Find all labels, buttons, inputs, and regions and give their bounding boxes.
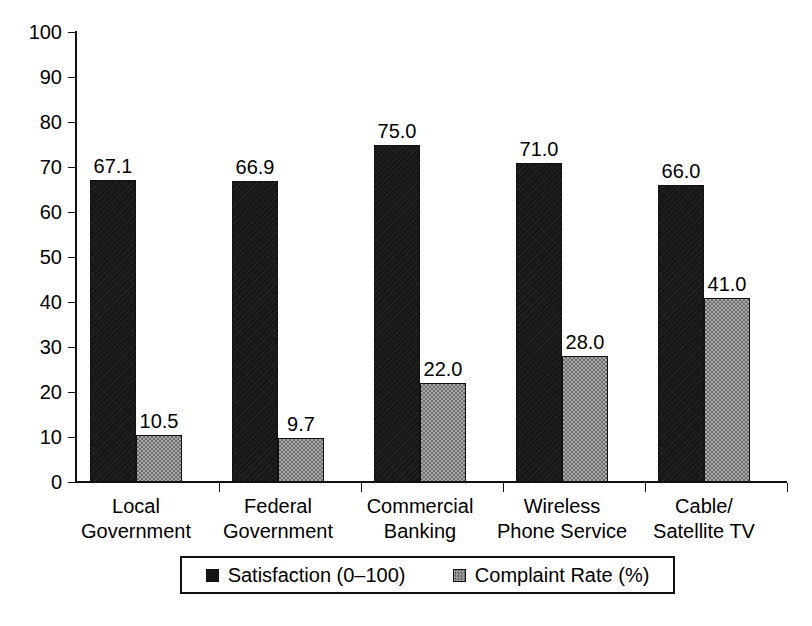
y-axis-tick xyxy=(68,257,76,258)
y-axis-tick-label: 80 xyxy=(4,112,62,132)
bar: 71.0 xyxy=(516,163,562,483)
legend-item-complaint-rate: Complaint Rate (%) xyxy=(453,565,650,585)
bar-group: 75.022.0 xyxy=(361,32,503,482)
bar: 10.5 xyxy=(136,435,182,482)
chart-legend: Satisfaction (0–100) Complaint Rate (%) xyxy=(180,556,675,594)
bar-value-label: 22.0 xyxy=(424,358,463,380)
y-axis-tick-label: 10 xyxy=(4,427,62,447)
x-axis-category-label: Cable/Satellite TV xyxy=(594,494,812,544)
y-axis-tick xyxy=(68,77,76,78)
y-axis-tick-label: 20 xyxy=(4,382,62,402)
y-axis-tick xyxy=(68,437,76,438)
bar: 66.9 xyxy=(232,181,278,482)
bar: 9.7 xyxy=(278,438,324,482)
y-axis-tick xyxy=(68,302,76,303)
legend-item-satisfaction: Satisfaction (0–100) xyxy=(206,565,406,585)
bar-value-label: 9.7 xyxy=(287,413,315,435)
x-axis-tick xyxy=(503,483,504,492)
y-axis-tick xyxy=(68,392,76,393)
bar-value-label: 66.0 xyxy=(662,160,701,182)
legend-label-satisfaction: Satisfaction (0–100) xyxy=(228,565,406,585)
bar-value-label: 66.9 xyxy=(236,156,275,178)
legend-label-complaint-rate: Complaint Rate (%) xyxy=(475,565,650,585)
bar-value-label: 28.0 xyxy=(566,331,605,353)
bar: 66.0 xyxy=(658,185,704,482)
gray-square-swatch-icon xyxy=(453,569,466,582)
y-axis-tick xyxy=(68,212,76,213)
dark-square-swatch-icon xyxy=(206,569,219,582)
bar: 75.0 xyxy=(374,145,420,483)
bar: 28.0 xyxy=(562,356,608,482)
bar-value-label: 67.1 xyxy=(94,155,133,177)
bar: 41.0 xyxy=(704,298,750,483)
x-axis-tick xyxy=(787,483,788,492)
y-axis-tick xyxy=(68,122,76,123)
y-axis-tick-label: 40 xyxy=(4,292,62,312)
bar: 22.0 xyxy=(420,383,466,482)
bar-group: 71.028.0 xyxy=(503,32,645,482)
y-axis-tick-label: 60 xyxy=(4,202,62,222)
y-axis-tick-label: 90 xyxy=(4,67,62,87)
y-axis-tick-label: 50 xyxy=(4,247,62,267)
plot-area: 67.110.566.99.775.022.071.028.066.041.0 xyxy=(77,32,787,482)
bar-group: 67.110.5 xyxy=(77,32,219,482)
x-axis-tick xyxy=(361,483,362,492)
y-axis-tick xyxy=(68,482,76,483)
x-axis-tick xyxy=(219,483,220,492)
bar-group: 66.99.7 xyxy=(219,32,361,482)
x-axis-tick xyxy=(645,483,646,492)
y-axis-tick-label: 70 xyxy=(4,157,62,177)
bar-value-label: 75.0 xyxy=(378,120,417,142)
bar-value-label: 71.0 xyxy=(520,138,559,160)
bar-group: 66.041.0 xyxy=(645,32,787,482)
bar-chart: 1009080706050403020100 67.110.566.99.775… xyxy=(0,0,812,626)
bar-value-label: 41.0 xyxy=(708,273,747,295)
y-axis-tick xyxy=(68,32,76,33)
y-axis-tick-label: 0 xyxy=(4,472,62,492)
x-axis-category-line: Cable/ xyxy=(594,494,812,519)
bar-value-label: 10.5 xyxy=(140,410,179,432)
y-axis-tick xyxy=(68,167,76,168)
x-axis-category-line: Satellite TV xyxy=(594,519,812,544)
y-axis-tick xyxy=(68,347,76,348)
bar: 67.1 xyxy=(90,180,136,482)
y-axis-tick-label: 30 xyxy=(4,337,62,357)
y-axis-tick-label: 100 xyxy=(4,22,62,42)
